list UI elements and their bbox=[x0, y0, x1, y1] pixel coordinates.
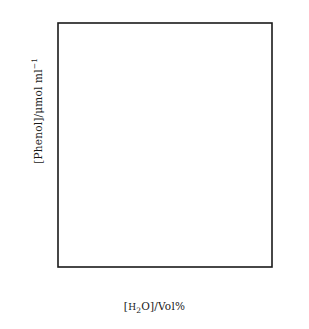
plot-frame-box bbox=[58, 23, 272, 267]
chart-figure: [Phenol]/μmol ml−1 [H2O]/Vol% bbox=[0, 0, 309, 329]
plot-area bbox=[0, 0, 309, 329]
axis-frame bbox=[58, 23, 272, 267]
